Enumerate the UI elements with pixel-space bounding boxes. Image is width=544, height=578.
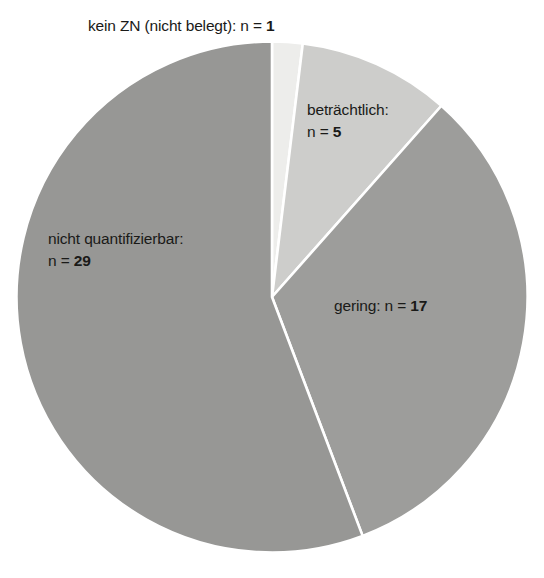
slice-value-gering: 17 — [410, 297, 427, 314]
slice-label-gering: gering: n = 17 — [334, 295, 427, 317]
slice-label-kein-zn-text: kein ZN (nicht belegt): n = — [88, 17, 266, 34]
slice-value-betraechtlich-line: n = 5 — [307, 121, 389, 143]
pie-slices-group — [17, 42, 528, 553]
slice-value-betraechtlich-prefix: n = — [307, 123, 333, 140]
slice-label-betraechtlich: beträchtlich:n = 5 — [307, 99, 389, 143]
pie-chart-graphic — [0, 0, 544, 578]
slice-label-nicht-quantifizierbar: nicht quantifizierbar:n = 29 — [48, 228, 183, 272]
slice-value-betraechtlich: 5 — [333, 123, 341, 140]
slice-value-nq-prefix: n = — [48, 252, 74, 269]
pie-chart-figure: kein ZN (nicht belegt): n = 1 beträchtli… — [0, 0, 544, 578]
slice-label-gering-text: gering: n = — [334, 297, 410, 314]
slice-value-nicht-quantifizierbar: 29 — [74, 252, 91, 269]
slice-label-betraechtlich-text: beträchtlich: — [307, 99, 389, 121]
slice-value-kein-zn: 1 — [266, 17, 274, 34]
slice-value-nicht-quantifizierbar-line: n = 29 — [48, 250, 183, 272]
slice-label-nicht-quantifizierbar-text: nicht quantifizierbar: — [48, 228, 183, 250]
slice-label-kein-zn: kein ZN (nicht belegt): n = 1 — [88, 15, 275, 37]
